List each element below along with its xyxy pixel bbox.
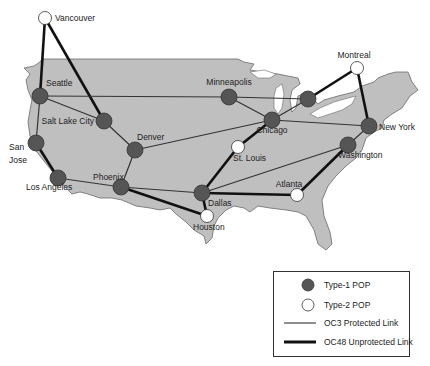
oc3-link-icon — [282, 316, 318, 330]
type1-pop-icon — [361, 118, 377, 134]
type2-pop-icon — [301, 298, 315, 312]
node-label: Seattle — [46, 78, 73, 88]
node-label: Washington — [338, 150, 383, 160]
legend-type1-pop: Type-1 POP — [274, 278, 409, 292]
type1-pop-icon — [221, 89, 237, 105]
node-label: Dallas — [208, 198, 232, 208]
pop-node-newyork: New York — [361, 118, 416, 134]
type1-pop-icon — [28, 135, 44, 151]
node-label: Denver — [137, 132, 165, 142]
node-label: Houston — [193, 222, 225, 232]
type2-pop-icon — [232, 141, 245, 154]
node-label: Vancouver — [55, 13, 95, 23]
node-label: New York — [379, 122, 416, 132]
node-label: Salt Lake City — [42, 116, 95, 126]
node-label: Jose — [9, 155, 27, 165]
type2-pop-icon — [201, 210, 214, 223]
node-label: Los Angeles — [26, 182, 72, 192]
oc48-link-icon — [282, 335, 318, 349]
type1-pop-icon — [127, 142, 143, 158]
node-label: Atlanta — [276, 179, 303, 189]
node-label: Chicago — [256, 125, 287, 135]
type1-pop-icon — [96, 113, 112, 129]
legend-label: Type-1 POP — [324, 280, 370, 290]
type2-pop-icon — [351, 62, 364, 75]
type1-pop-icon — [301, 278, 315, 292]
pop-node-sanjose: SanJose — [9, 135, 44, 165]
legend-label: OC48 Unprotected Link — [324, 337, 413, 347]
node-label: Phoenix — [93, 172, 124, 182]
legend-label: OC3 Protected Link — [324, 318, 398, 328]
node-label: San — [9, 142, 24, 152]
node-label: Montreal — [337, 50, 370, 60]
node-label: St. Louis — [233, 153, 266, 163]
legend-oc3-link: OC3 Protected Link — [274, 316, 409, 330]
network-map: VancouverSeattleSalt Lake CitySanJoseDen… — [0, 0, 430, 366]
pop-node-vancouver: Vancouver — [39, 12, 96, 25]
node-label: Minneapolis — [206, 77, 251, 87]
pop-node-montreal: Montreal — [337, 50, 370, 75]
legend-label: Type-2 POP — [324, 300, 370, 310]
legend-oc48-link: OC48 Unprotected Link — [274, 335, 409, 349]
type1-pop-icon — [32, 88, 48, 104]
legend-type2-pop: Type-2 POP — [274, 298, 409, 312]
legend: Type-1 POP Type-2 POP OC3 Protected Link… — [273, 271, 410, 357]
type1-pop-icon — [300, 91, 316, 107]
pop-node-detroit — [300, 91, 316, 107]
type2-pop-icon — [291, 189, 304, 202]
type2-pop-icon — [39, 12, 52, 25]
